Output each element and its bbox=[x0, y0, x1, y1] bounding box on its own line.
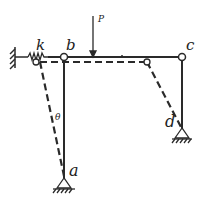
hinge-b bbox=[61, 54, 68, 61]
label-k: k bbox=[36, 36, 45, 54]
beam-midpoint-mark bbox=[121, 55, 123, 57]
load-arrow-p bbox=[90, 16, 96, 57]
hinge-k-displaced bbox=[33, 59, 39, 65]
label-p: P bbox=[97, 14, 105, 24]
frame-diagram: k b c P θ a d bbox=[0, 0, 205, 203]
label-a: a bbox=[69, 161, 79, 180]
pin-support-a bbox=[53, 178, 75, 193]
label-b: b bbox=[66, 36, 76, 54]
deformed-shape bbox=[40, 62, 181, 176]
fixed-wall bbox=[10, 47, 28, 69]
label-theta: θ bbox=[55, 112, 61, 122]
label-c: c bbox=[186, 36, 195, 54]
hinge-c bbox=[179, 54, 186, 61]
label-d: d bbox=[165, 112, 175, 131]
hinge-displaced-bc bbox=[144, 59, 150, 65]
